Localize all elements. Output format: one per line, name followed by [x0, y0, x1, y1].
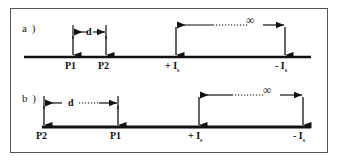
panel-a-point-label-p1-text: P1: [65, 60, 76, 71]
panel-b-point-label-p2: P2: [36, 130, 47, 143]
panel-a-point-label-minus-is: - Is: [275, 60, 287, 73]
panel-a-label: a ): [22, 22, 36, 34]
panel-b-point-label-plus-is: + Is: [188, 130, 202, 143]
diagram-vector-layer: [0, 0, 339, 161]
panel-b-point-label-p1: P1: [110, 130, 121, 143]
panel-b-point-label-plus-is-sub: s: [200, 137, 202, 143]
panel-a-point-label-p2-text: P2: [98, 60, 109, 71]
panel-b-point-label-plus-is-text: + I: [188, 130, 200, 141]
panel-b-point-label-p2-text: P2: [36, 130, 47, 141]
panel-a-point-label-minus-is-sub: s: [285, 67, 287, 73]
panel-b-point-label-p1-text: P1: [110, 130, 121, 141]
panel-a-point-label-plus-is-text: + I: [165, 60, 177, 71]
panel-a-graphics: [24, 25, 311, 57]
panel-b-point-label-minus-is: - Is: [293, 130, 305, 143]
panel-b-point-label-minus-is-text: - I: [293, 130, 303, 141]
panel-a-dimension-label: d: [86, 26, 92, 37]
panel-a-point-label-plus-is-sub: s: [177, 67, 179, 73]
panel-b-dimension-label: d: [68, 97, 74, 108]
panel-b-point-label-minus-is-sub: s: [303, 137, 305, 143]
panel-b-graphics: [42, 95, 311, 127]
panel-b-infinity-label: ∞: [263, 84, 272, 96]
figure-diagram: a ) d ∞ P1 P2 + Is - Is b ) d ∞ P2 P1 + …: [0, 0, 339, 161]
panel-a-point-label-p1: P1: [65, 60, 76, 73]
panel-a-infinity-label: ∞: [246, 14, 255, 26]
panel-a-point-label-plus-is: + Is: [165, 60, 179, 73]
panel-a-point-label-p2: P2: [98, 60, 109, 73]
panel-b-label: b ): [22, 92, 37, 104]
panel-a-point-label-minus-is-text: - I: [275, 60, 285, 71]
